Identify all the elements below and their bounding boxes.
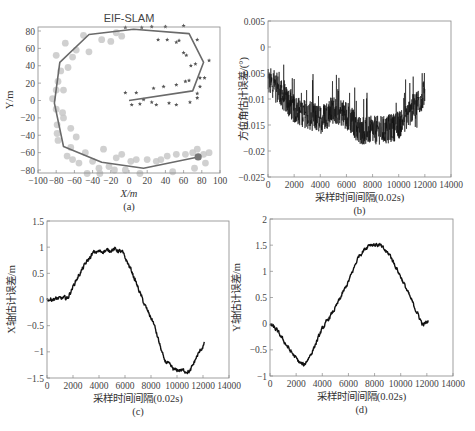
y-tick-label: 60 <box>26 44 36 54</box>
y-tick-label: −1.5 <box>27 374 44 384</box>
x-tick-label: 6000 <box>116 381 135 391</box>
landmark-star-icon <box>193 62 197 66</box>
x-tick-label: 0 <box>266 180 271 190</box>
landmark-star-icon <box>130 103 134 107</box>
y-tick-label: −0.5 <box>27 321 44 331</box>
landmark-star-icon <box>195 37 199 41</box>
x-tick-label: 8000 <box>363 180 382 190</box>
y-tick-label: 0.005 <box>244 17 266 27</box>
landmark-circle-icon <box>206 149 213 156</box>
y-tick-label: 1.5 <box>32 217 44 227</box>
y-tick-label: −20 <box>20 113 35 123</box>
x-tick-label: −60 <box>67 176 82 186</box>
plot-frame <box>270 219 453 376</box>
y-tick-label: 1.5 <box>255 241 267 251</box>
landmark-circle-icon <box>122 167 129 174</box>
y-tick-label: −1 <box>257 372 267 382</box>
y-tick-label: −0.025 <box>238 173 265 183</box>
landmark-circle-icon <box>76 160 83 167</box>
y-tick-label: 20 <box>26 79 36 89</box>
x-tick-label: −20 <box>103 176 118 186</box>
x-tick-label: 12000 <box>413 180 437 190</box>
landmark-circle-icon <box>73 134 80 141</box>
landmark-circle-icon <box>202 160 209 167</box>
landmark-star-icon <box>161 84 165 88</box>
y-tick-label: 1 <box>262 267 267 277</box>
y-tick-label: −0.5 <box>250 345 267 355</box>
landmark-circle-icon <box>55 137 62 144</box>
x-tick-label: 4000 <box>90 381 109 391</box>
x-tick-label: 8000 <box>142 381 161 391</box>
y-tick-label: 0.5 <box>32 269 44 279</box>
landmark-circle-icon <box>98 36 105 43</box>
landmark-star-icon <box>154 103 158 107</box>
x-tick-label: −80 <box>49 176 64 186</box>
landmark-circle-icon <box>133 156 140 163</box>
landmark-circle-icon <box>191 165 198 172</box>
landmark-circle-icon <box>182 151 189 158</box>
x-tick-label: 6000 <box>339 379 358 389</box>
landmark-star-icon <box>187 78 191 82</box>
landmark-star-icon <box>182 51 186 55</box>
panel-a-trajectory-plot: −100−80−60−40−20020406080100806040200−20… <box>4 12 227 213</box>
landmark-circle-icon <box>107 38 114 45</box>
landmark-circle-icon <box>69 54 76 61</box>
y-tick-label: 0.5 <box>255 293 267 303</box>
landmark-circle-icon <box>65 64 72 71</box>
x-tick-label: 4000 <box>313 379 332 389</box>
x-tick-label: −40 <box>85 176 100 186</box>
x-tick-label: −100 <box>28 176 48 186</box>
robot-marker-icon <box>195 153 202 160</box>
x-tick-label: 14000 <box>441 379 465 389</box>
y-axis-label: X轴估计误差/m <box>5 265 17 334</box>
landmark-circle-icon <box>100 146 107 153</box>
landmark-circle-icon <box>60 87 67 94</box>
panel-b-heading-error-plot: 020004000600080001000012000140000.0050−0… <box>237 17 463 218</box>
landmark-star-icon <box>189 64 193 68</box>
landmark-star-icon <box>138 102 142 106</box>
landmark-star-icon <box>198 84 202 88</box>
x-axis-label: 采样时间间隔(0.02s) <box>317 390 407 403</box>
landmark-star-icon <box>156 37 160 41</box>
landmark-circle-icon <box>118 151 125 158</box>
landmark-star-icon <box>150 24 154 28</box>
landmark-circle-icon <box>194 146 201 153</box>
landmark-star-icon <box>123 90 127 94</box>
y-tick-label: 0 <box>30 96 35 106</box>
landmark-star-icon <box>167 101 171 105</box>
landmark-circle-icon <box>111 167 118 174</box>
x-tick-label: 14000 <box>439 180 463 190</box>
x-tick-label: 6000 <box>337 180 356 190</box>
x-tick-label: 100 <box>213 176 228 186</box>
landmark-circle-icon <box>67 125 74 132</box>
x-axis-label: 采样时间间隔(0.02s) <box>315 191 405 204</box>
landmark-star-icon <box>207 58 211 62</box>
y-axis-label: Y轴估计误差/m <box>230 263 242 332</box>
landmark-star-icon <box>174 40 178 44</box>
y-axis-label: Y/m <box>4 91 15 110</box>
x-tick-label: 12000 <box>415 379 439 389</box>
x-tick-label: 10000 <box>387 180 411 190</box>
landmark-star-icon <box>165 37 169 41</box>
x-tick-label: 4000 <box>311 180 330 190</box>
landmark-circle-icon <box>144 156 151 163</box>
landmark-star-icon <box>202 76 206 80</box>
y-tick-label: −40 <box>20 131 35 141</box>
y-tick-label: −1 <box>34 347 44 357</box>
x-tick-label: 2000 <box>64 381 83 391</box>
landmark-circle-icon <box>164 153 171 160</box>
x-tick-label: 0 <box>268 379 273 389</box>
x-tick-label: 8000 <box>365 379 384 389</box>
y-tick-label: 1 <box>39 243 44 253</box>
x-tick-label: 12000 <box>191 381 215 391</box>
y-tick-label: 0 <box>39 295 44 305</box>
heading-error-line <box>268 65 425 145</box>
landmark-star-icon <box>188 100 192 104</box>
landmark-circle-icon <box>157 156 164 163</box>
landmark-star-icon <box>183 79 187 83</box>
y-tick-label: 0 <box>260 43 265 53</box>
y-tick-label: −0.02 <box>243 147 265 157</box>
panel-caption: (b) <box>353 205 366 217</box>
landmark-circle-icon <box>60 114 67 121</box>
x-error-line <box>47 247 204 373</box>
